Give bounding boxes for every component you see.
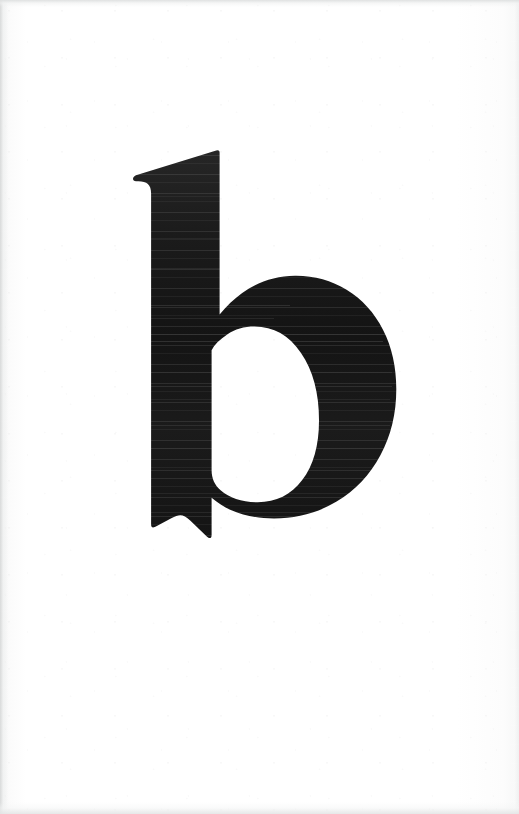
page-edge-top <box>0 0 519 7</box>
letter-specimen <box>0 0 519 814</box>
page-edge-left <box>0 0 8 814</box>
glyph-outline <box>133 150 396 538</box>
page-edge-right <box>509 0 519 814</box>
lowercase-b-glyph <box>0 0 519 814</box>
page-edge-bottom <box>0 802 519 814</box>
scanned-page <box>0 0 519 814</box>
